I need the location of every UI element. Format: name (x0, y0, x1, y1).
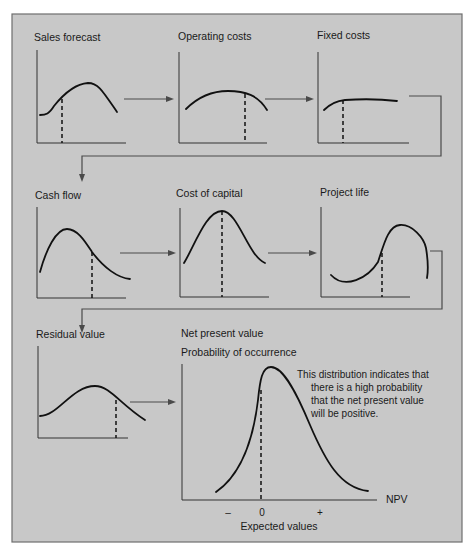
npv-simulation-diagram: Sales forecastOperating costsFixed costs… (0, 0, 476, 552)
annotation-line: This distribution indicates that (297, 369, 429, 380)
annotation-line: that the net present value (311, 395, 424, 406)
diagram-panel (12, 14, 462, 542)
npv-y-axis-label: Probability of occurrence (181, 346, 297, 358)
npv-title: Net present value (181, 327, 263, 339)
x-tick-label: – (225, 507, 231, 518)
x-tick-label: 0 (259, 507, 265, 518)
npv-axis-label: NPV (386, 493, 408, 505)
panel-title: Fixed costs (317, 29, 370, 41)
annotation-line: there is a high probability (311, 382, 422, 393)
panel-title: Operating costs (178, 30, 252, 42)
panel-title: Cash flow (35, 189, 82, 201)
npv-x-axis-label: Expected values (240, 520, 317, 532)
x-tick-label: + (317, 507, 323, 518)
annotation-line: will be positive. (310, 408, 378, 419)
panel-title: Cost of capital (176, 187, 243, 199)
panel-title: Residual value (36, 328, 105, 340)
panel-title: Sales forecast (34, 31, 101, 43)
panel-title: Project life (320, 186, 369, 198)
